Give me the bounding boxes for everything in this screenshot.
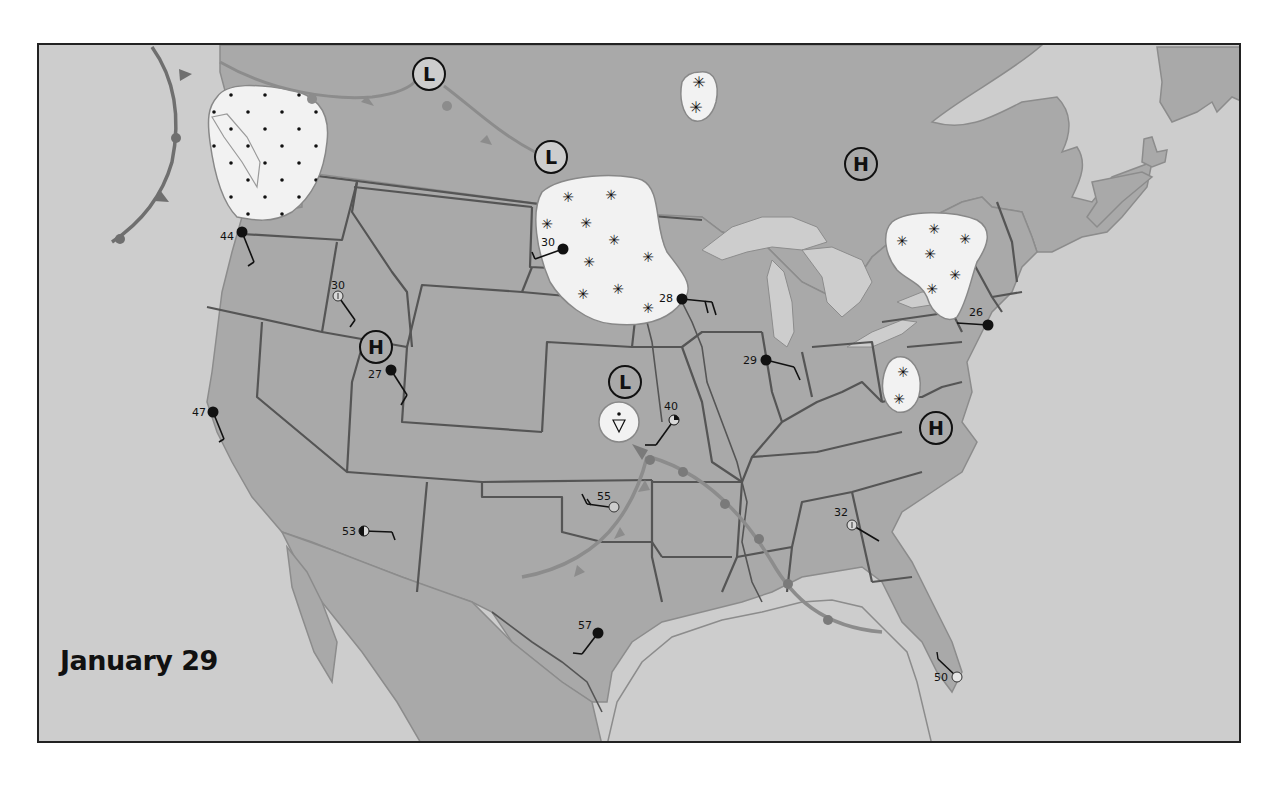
svg-text:✳: ✳ bbox=[949, 267, 961, 283]
precip-kansas-shower bbox=[599, 402, 639, 442]
high-pressure-center: H bbox=[845, 148, 877, 180]
svg-text:✳: ✳ bbox=[893, 391, 905, 407]
svg-text:L: L bbox=[423, 63, 435, 85]
svg-text:✳: ✳ bbox=[583, 254, 595, 270]
svg-text:30: 30 bbox=[541, 236, 555, 249]
precip-appalachians: ✳✳ bbox=[883, 357, 921, 413]
svg-text:✳: ✳ bbox=[896, 233, 908, 249]
svg-text:26: 26 bbox=[969, 306, 983, 319]
svg-text:27: 27 bbox=[368, 368, 382, 381]
svg-text:✳: ✳ bbox=[692, 73, 705, 92]
svg-text:✳: ✳ bbox=[928, 221, 940, 237]
svg-text:✳: ✳ bbox=[924, 246, 936, 262]
svg-text:✳: ✳ bbox=[612, 281, 624, 297]
svg-text:✳: ✳ bbox=[642, 300, 654, 316]
svg-text:✳: ✳ bbox=[608, 232, 620, 248]
svg-text:✳: ✳ bbox=[577, 286, 589, 302]
low-pressure-center: L bbox=[609, 366, 641, 398]
svg-text:50: 50 bbox=[934, 671, 948, 684]
svg-text:✳: ✳ bbox=[580, 215, 592, 231]
svg-text:29: 29 bbox=[743, 354, 757, 367]
weather-map: ✳ ✳ ✳✳ ✳✳ ✳✳ ✳✳ ✳✳ ✳✳ ✳✳ ✳✳ ✳✳ bbox=[37, 43, 1241, 743]
svg-text:H: H bbox=[853, 153, 869, 175]
svg-text:55: 55 bbox=[597, 490, 611, 503]
svg-text:57: 57 bbox=[578, 619, 592, 632]
svg-text:40: 40 bbox=[664, 400, 678, 413]
low-pressure-center: L bbox=[535, 141, 567, 173]
high-pressure-center: H bbox=[920, 412, 952, 444]
svg-text:44: 44 bbox=[220, 230, 234, 243]
svg-text:✳: ✳ bbox=[926, 281, 938, 297]
svg-text:30: 30 bbox=[331, 279, 345, 292]
svg-text:✳: ✳ bbox=[897, 364, 909, 380]
map-canvas: ✳ ✳ ✳✳ ✳✳ ✳✳ ✳✳ ✳✳ ✳✳ ✳✳ ✳✳ ✳✳ bbox=[39, 45, 1241, 743]
map-date-title: January 29 bbox=[60, 645, 218, 676]
svg-text:53: 53 bbox=[342, 525, 356, 538]
svg-text:H: H bbox=[368, 336, 384, 358]
svg-text:✳: ✳ bbox=[689, 98, 702, 117]
svg-text:47: 47 bbox=[192, 406, 206, 419]
svg-text:✳: ✳ bbox=[562, 189, 574, 205]
svg-text:✳: ✳ bbox=[605, 187, 617, 203]
svg-text:H: H bbox=[928, 417, 944, 439]
svg-text:32: 32 bbox=[834, 506, 848, 519]
svg-text:L: L bbox=[619, 371, 631, 393]
svg-text:28: 28 bbox=[659, 292, 673, 305]
high-pressure-center: H bbox=[360, 331, 392, 363]
svg-text:L: L bbox=[545, 146, 557, 168]
svg-text:✳: ✳ bbox=[642, 249, 654, 265]
svg-text:✳: ✳ bbox=[959, 231, 971, 247]
svg-text:✳: ✳ bbox=[541, 216, 553, 232]
low-pressure-center: L bbox=[413, 58, 445, 90]
